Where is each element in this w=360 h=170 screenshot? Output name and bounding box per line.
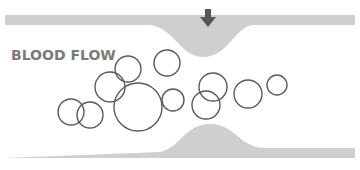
blood-cell [95,72,125,102]
blood-cell [115,56,141,82]
blood-cell [234,80,262,108]
blood-cell [77,102,103,128]
blood-cell [154,50,180,76]
blood-cell [199,73,227,101]
blood-cell [114,83,162,131]
blood-cell [192,91,220,119]
blood-cell [162,89,184,111]
blood-flow-label: BLOOD FLOW [11,47,116,63]
bottom-vessel-wall [5,124,355,158]
blood-cell [58,99,84,125]
blood-cell [267,75,287,95]
stenosis-diagram [0,0,360,170]
